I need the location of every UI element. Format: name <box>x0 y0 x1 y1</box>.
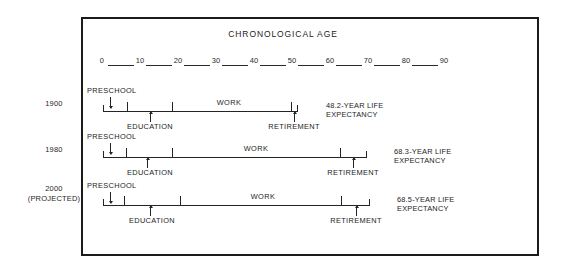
row-label-2000-line2: (PROJECTED) <box>18 194 90 204</box>
axis-segment-10-20 <box>146 65 172 66</box>
endcap-start-2000 <box>103 199 104 206</box>
arrow-education-2000 <box>150 206 151 216</box>
life-expectancy-1900-line1: 48.2-YEAR LIFE <box>326 101 383 110</box>
axis-tick-40: 40 <box>250 56 259 65</box>
label-preschool-1980: PRESCHOOL <box>87 132 137 141</box>
chart-title: CHRONOLOGICAL AGE <box>0 29 566 39</box>
label-work-1980: WORK <box>244 144 268 153</box>
chronological-age-axis: 0 10 20 30 40 50 60 70 80 90 <box>0 56 566 72</box>
endcap-start-1900 <box>103 105 104 112</box>
label-work-2000: WORK <box>251 192 275 201</box>
divider-education-work-1980 <box>172 148 173 158</box>
timeline-row-2000: 2000 (PROJECTED) PRESCHOOL EDUCATION WOR… <box>0 175 566 219</box>
baseline-1900 <box>103 111 298 112</box>
axis-segment-20-30 <box>184 65 210 66</box>
axis-tick-50: 50 <box>288 56 297 65</box>
arrow-preschool-2000 <box>110 192 111 203</box>
axis-segment-40-50 <box>260 65 286 66</box>
endcap-end-1900 <box>297 105 298 112</box>
axis-tick-60: 60 <box>326 56 335 65</box>
label-work-1900: WORK <box>217 98 241 107</box>
row-label-1900: 1900 <box>32 99 76 109</box>
life-expectancy-2000: 68.5-YEAR LIFE EXPECTANCY <box>397 195 454 214</box>
arrow-education-1900 <box>150 112 151 122</box>
axis-segment-30-40 <box>222 65 248 66</box>
axis-tick-90: 90 <box>440 56 449 65</box>
timeline-row-1980: 1980 PRESCHOOL EDUCATION WORK RETIREMENT… <box>0 130 566 174</box>
axis-segment-70-80 <box>374 65 400 66</box>
label-preschool-2000: PRESCHOOL <box>87 181 137 190</box>
baseline-2000 <box>103 205 370 206</box>
arrow-preschool-1900 <box>110 97 111 108</box>
divider-preschool-education-2000 <box>124 196 125 206</box>
timeline-row-1900: 1900 PRESCHOOL EDUCATION WORK RETIREMENT… <box>0 84 566 128</box>
divider-work-retirement-2000 <box>341 196 342 206</box>
axis-tick-10: 10 <box>136 56 145 65</box>
axis-tick-80: 80 <box>402 56 411 65</box>
row-label-2000: 2000 (PROJECTED) <box>18 184 90 203</box>
axis-segment-60-70 <box>336 65 362 66</box>
life-expectancy-1980: 68.3-YEAR LIFE EXPECTANCY <box>394 147 451 166</box>
axis-segment-0-10 <box>108 65 134 66</box>
endcap-start-1980 <box>103 151 104 158</box>
life-expectancy-2000-line2: EXPECTANCY <box>397 204 454 213</box>
arrow-retirement-2000 <box>356 206 357 216</box>
arrow-retirement-1980 <box>353 158 354 168</box>
divider-preschool-education-1900 <box>127 102 128 112</box>
label-preschool-1900: PRESCHOOL <box>87 86 137 95</box>
axis-tick-0: 0 <box>100 56 104 65</box>
endcap-end-1980 <box>366 151 367 158</box>
life-stages-timeline-figure: CHRONOLOGICAL AGE 0 10 20 30 40 50 60 70… <box>0 0 566 273</box>
life-expectancy-1980-line1: 68.3-YEAR LIFE <box>394 147 451 156</box>
arrow-preschool-1980 <box>110 143 111 154</box>
arrow-retirement-1900 <box>294 112 295 122</box>
divider-work-retirement-1980 <box>340 148 341 158</box>
row-label-2000-line1: 2000 <box>18 184 90 194</box>
life-expectancy-1900-line2: EXPECTANCY <box>326 110 383 119</box>
label-education-2000: EDUCATION <box>129 216 175 225</box>
row-label-1980: 1980 <box>32 145 76 155</box>
arrow-education-1980 <box>147 158 148 168</box>
life-expectancy-1980-line2: EXPECTANCY <box>394 156 451 165</box>
life-expectancy-1900: 48.2-YEAR LIFE EXPECTANCY <box>326 101 383 120</box>
life-expectancy-2000-line1: 68.5-YEAR LIFE <box>397 195 454 204</box>
axis-tick-20: 20 <box>174 56 183 65</box>
endcap-end-2000 <box>369 199 370 206</box>
baseline-1980 <box>103 157 367 158</box>
axis-tick-70: 70 <box>364 56 373 65</box>
axis-tick-30: 30 <box>212 56 221 65</box>
axis-segment-50-60 <box>298 65 324 66</box>
label-retirement-2000: RETIREMENT <box>330 216 382 225</box>
divider-preschool-education-1980 <box>126 148 127 158</box>
divider-education-work-1900 <box>172 102 173 112</box>
divider-education-work-2000 <box>180 196 181 206</box>
axis-segment-80-90 <box>412 65 438 66</box>
